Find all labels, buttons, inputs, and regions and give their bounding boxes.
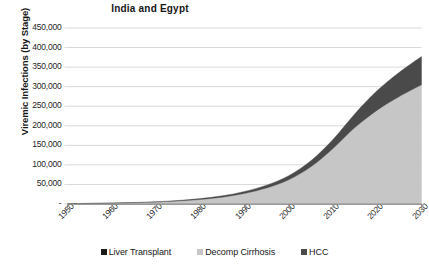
legend-label: HCC: [309, 247, 328, 257]
chart-container: India and Egypt Viremic Infections (by S…: [0, 0, 429, 268]
series-areas: [68, 57, 422, 204]
legend-label: Decomp Cirrhosis: [205, 247, 275, 257]
legend-swatch-icon: [301, 249, 307, 255]
chart-legend: Liver TransplantDecomp CirrhosisHCC: [0, 247, 429, 257]
legend-swatch-icon: [101, 249, 107, 255]
legend-label: Liver Transplant: [109, 247, 171, 257]
legend-item-liver-transplant[interactable]: Liver Transplant: [101, 247, 171, 257]
x-axis-ticks: [68, 204, 422, 208]
legend-item-hcc[interactable]: HCC: [301, 247, 328, 257]
y-axis-ticks: [65, 28, 68, 204]
plot-area: [0, 0, 429, 268]
legend-swatch-icon: [197, 249, 203, 255]
legend-item-decomp-cirrhosis[interactable]: Decomp Cirrhosis: [197, 247, 275, 257]
